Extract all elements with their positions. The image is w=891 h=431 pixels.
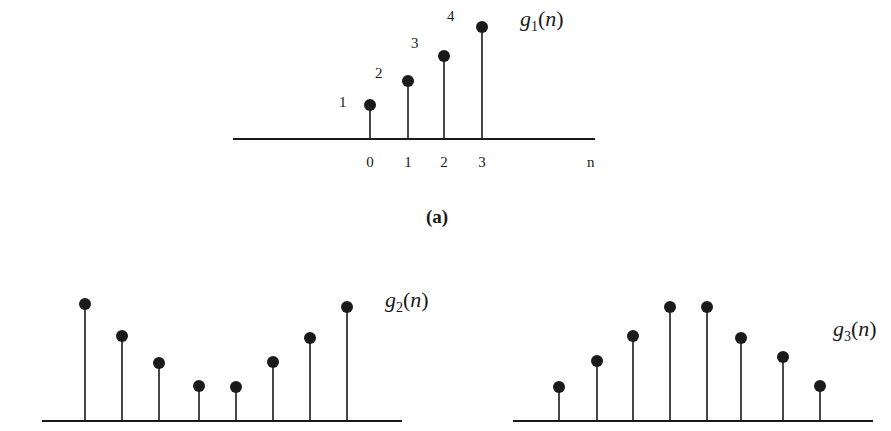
plot-g3: g3(n) [513,301,877,421]
stem-marker [364,99,376,111]
plot-g1: 1234 0123 n g1(n) (a) [233,6,595,228]
stem-marker [341,301,353,313]
g2-title: g2(n) [385,287,429,315]
g1-caption: (a) [426,206,448,228]
stem-marker [304,332,316,344]
stem-marker [814,380,826,392]
g1-title: g1(n) [520,6,564,34]
g1-stems [364,21,488,139]
g1-value-labels: 1234 [339,8,455,110]
stem-marker [116,330,128,342]
g3-title: g3(n) [833,316,877,344]
stem-marker [193,380,205,392]
stem-marker [476,21,488,33]
stem-marker [553,381,565,393]
stem-marker [230,381,242,393]
g2-stems [79,298,353,421]
stem-marker [438,50,450,62]
stem-marker [402,75,414,87]
stem-marker [627,330,639,342]
stem-marker [153,357,165,369]
tick-label: 2 [440,154,448,170]
tick-label: 3 [478,154,486,170]
stem-marker [664,301,676,313]
g1-xlabel: n [587,154,595,170]
value-label: 3 [411,35,419,51]
value-label: 1 [339,94,347,110]
g3-stems [553,301,826,421]
tick-label: 0 [366,154,374,170]
value-label: 2 [375,65,383,81]
g1-tick-labels: 0123 [366,154,486,170]
tick-label: 1 [404,154,412,170]
stem-marker [591,355,603,367]
value-label: 4 [447,8,455,24]
stem-marker [79,298,91,310]
plot-g2: g2(n) [42,287,429,421]
stem-plots-figure: 1234 0123 n g1(n) (a) g2(n) g3(n) [0,0,891,431]
stem-marker [701,301,713,313]
stem-marker [267,356,279,368]
stem-marker [777,351,789,363]
stem-marker [735,332,747,344]
